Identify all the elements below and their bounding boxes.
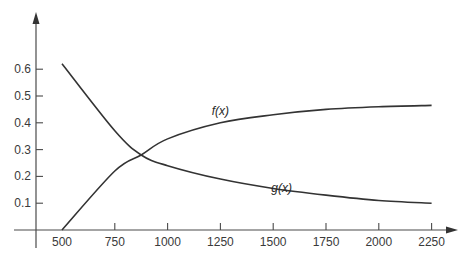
g-curve-label: g(x) <box>271 181 292 195</box>
x-tick-label: 2000 <box>365 235 392 249</box>
x-tick-label: 1000 <box>154 235 181 249</box>
y-axis-arrow-icon <box>33 12 40 24</box>
f-curve-label: f(x) <box>212 104 229 118</box>
y-tick-label: 0.3 <box>14 143 31 157</box>
x-tick-label: 1750 <box>313 235 340 249</box>
x-tick-label: 2250 <box>418 235 445 249</box>
x-axis-arrow-icon <box>446 227 458 234</box>
y-tick-label: 0.2 <box>14 169 31 183</box>
x-tick-label: 1500 <box>260 235 287 249</box>
y-tick-label: 0.6 <box>14 62 31 76</box>
x-axis <box>14 227 458 234</box>
line-chart: 0.10.20.30.40.50.6 500750100012501500175… <box>0 0 464 261</box>
x-tick-label: 750 <box>105 235 125 249</box>
y-tick-label: 0.5 <box>14 89 31 103</box>
curves <box>62 64 432 230</box>
x-tick-label: 500 <box>52 235 72 249</box>
y-tick-label: 0.1 <box>14 196 31 210</box>
x-tick-label: 1250 <box>207 235 234 249</box>
y-axis <box>33 12 40 248</box>
y-ticks: 0.10.20.30.40.50.6 <box>14 62 43 210</box>
x-ticks: 500750100012501500175020002250 <box>52 223 445 249</box>
y-tick-label: 0.4 <box>14 116 31 130</box>
g-curve <box>62 64 432 203</box>
f-curve <box>62 105 432 230</box>
